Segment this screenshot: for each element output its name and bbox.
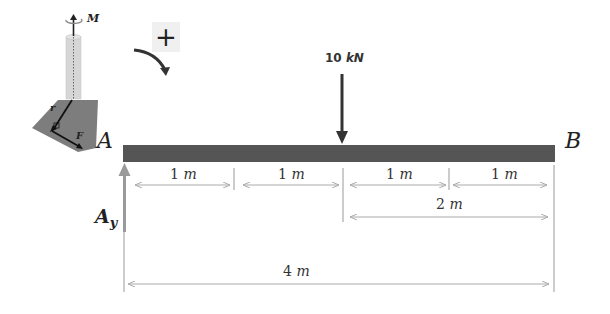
dim-label-seg-1: 1 m bbox=[170, 166, 197, 182]
dim-label-seg-2: 1 m bbox=[278, 166, 305, 182]
point-load-arrow bbox=[336, 74, 348, 144]
point-b-label: B bbox=[565, 128, 581, 153]
moment-inset-illustration bbox=[32, 14, 98, 152]
positive-sign: + bbox=[152, 22, 180, 52]
moment-label: M bbox=[87, 12, 99, 25]
r-vector-label: r bbox=[50, 102, 55, 113]
extension-lines bbox=[124, 165, 554, 292]
dim-label-4m: 4 m bbox=[283, 263, 310, 279]
base-plate bbox=[32, 100, 98, 152]
dim-label-2m: 2 m bbox=[436, 196, 463, 212]
dim-label-seg-4: 1 m bbox=[491, 166, 518, 182]
load-label: 10 kN bbox=[325, 51, 364, 65]
dim-label-seg-3: 1 m bbox=[386, 166, 413, 182]
point-a-label: A bbox=[97, 128, 113, 153]
f-vector-label: F bbox=[76, 130, 83, 141]
load-value: 10 bbox=[325, 51, 342, 65]
reaction-arrow-ay bbox=[119, 163, 131, 232]
load-unit: kN bbox=[346, 51, 364, 65]
reaction-label: Ay bbox=[95, 205, 117, 230]
beam bbox=[123, 145, 555, 162]
clockwise-arrow-icon bbox=[134, 50, 165, 70]
dimension-lines bbox=[128, 185, 549, 284]
